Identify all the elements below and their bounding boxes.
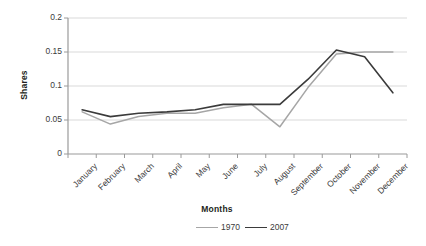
chart-legend: 19702007 <box>196 222 289 232</box>
legend-label: 1970 <box>221 222 240 232</box>
line-chart: Shares 00.050.10.150.2 JanuaryFebruaryMa… <box>0 0 426 246</box>
x-axis-title: Months <box>172 204 262 214</box>
legend-line-swatch <box>245 227 267 228</box>
legend-line-swatch <box>196 227 218 228</box>
series-line-1970 <box>82 52 393 127</box>
legend-item-2007[interactable]: 2007 <box>245 222 289 232</box>
legend-item-1970[interactable]: 1970 <box>196 222 240 232</box>
legend-label: 2007 <box>270 222 289 232</box>
